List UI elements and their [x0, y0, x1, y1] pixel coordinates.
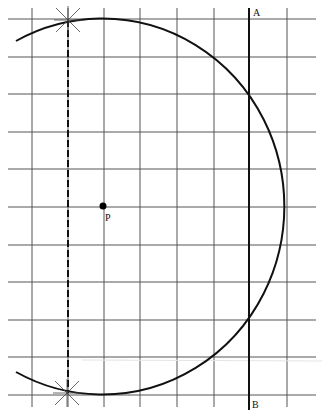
center-point-p	[100, 203, 107, 210]
grid	[8, 8, 316, 407]
faint-artifact-line	[82, 360, 322, 361]
label-p: P	[105, 213, 111, 223]
construction-diagram	[0, 0, 322, 412]
intersection-mark-top	[54, 6, 82, 34]
intersection-mark-bottom	[53, 379, 81, 407]
label-a: A	[253, 8, 260, 18]
label-b: B	[252, 400, 259, 410]
